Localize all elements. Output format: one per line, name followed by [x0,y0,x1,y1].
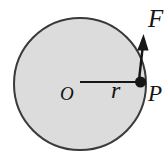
force-label: F [148,6,163,31]
point-label: P [148,82,162,105]
center-label: O [60,84,74,103]
circle-force-figure [0,0,168,160]
radius-label: r [111,78,120,102]
point-p-dot [135,77,146,88]
force-arrow-head-icon [137,34,148,51]
diagram-canvas: F P r O [0,0,168,160]
